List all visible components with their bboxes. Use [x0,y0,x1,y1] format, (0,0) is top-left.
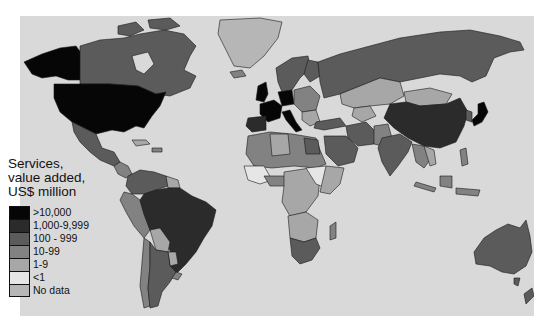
legend-swatch [9,232,30,245]
legend-swatch [9,219,30,232]
russia [318,30,524,98]
legend-swatch [9,206,30,219]
legend-title-line: value added, [8,171,128,185]
legend-label: 1-9 [33,258,48,271]
legend-label: No data [33,284,70,297]
legend-title: Services, value added, US$ million [8,157,128,199]
legend-swatch [9,284,30,297]
legend-items: >10,0001,000-9,999100 - 99910-991-9<1No … [9,206,128,297]
legend-title-line: US$ million [8,185,128,199]
legend-item: 1,000-9,999 [9,219,128,232]
legend-swatch [9,258,30,271]
legend-item: 10-99 [9,245,128,258]
legend-label: 10-99 [33,245,60,258]
greenland [218,18,282,68]
legend-label: 1,000-9,999 [33,219,89,232]
legend-item: 100 - 999 [9,232,128,245]
legend-item: No data [9,284,128,297]
legend-label: >10,000 [33,206,71,219]
legend-item: <1 [9,271,128,284]
legend-title-line: Services, [8,157,128,171]
alaska [24,46,82,80]
usa [54,84,166,134]
legend-swatch [9,271,30,284]
legend-item: 1-9 [9,258,128,271]
japan [472,102,488,126]
legend-item: >10,000 [9,206,128,219]
legend-label: 100 - 999 [33,232,77,245]
india [378,134,412,176]
map-legend: Services, value added, US$ million >10,0… [8,157,128,297]
legend-swatch [9,245,30,258]
australia [474,220,532,274]
legend-label: <1 [33,271,45,284]
south-africa [290,238,320,264]
